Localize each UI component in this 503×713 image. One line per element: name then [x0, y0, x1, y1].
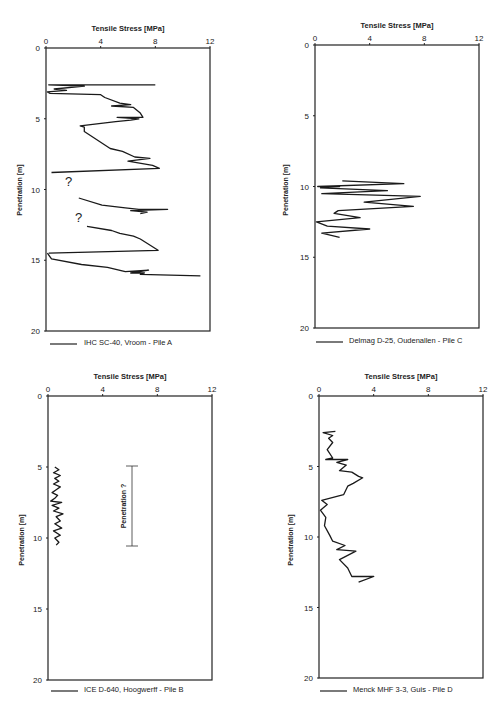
- y-tick-label: 15: [33, 605, 42, 614]
- x-axis-title: Tensile Stress [MPa]: [92, 24, 165, 33]
- data-line: [51, 467, 63, 545]
- penetration-range-annotation: Penetration ?: [120, 466, 138, 546]
- data-line: [47, 85, 159, 173]
- x-axis-ticks: 04812: [317, 385, 488, 396]
- y-tick-label: 15: [31, 256, 40, 265]
- y-axis-title: Penetration [m]: [282, 164, 290, 215]
- x-tick-label: 4: [367, 34, 372, 43]
- x-tick-label: 0: [317, 385, 322, 394]
- y-tick-label: 0: [38, 392, 43, 401]
- y-tick-label: 5: [309, 463, 314, 472]
- y-tick-label: 0: [305, 41, 310, 50]
- y-tick-label: 10: [304, 533, 313, 542]
- x-axis-ticks: 04812: [46, 385, 217, 396]
- x-tick-label: 12: [479, 385, 488, 394]
- chart-pile-d: Tensile Stress [MPa] 04812 05101520 Pene…: [253, 350, 503, 713]
- x-tick-label: 8: [422, 34, 427, 43]
- y-tick-label: 20: [304, 674, 313, 683]
- y-axis-ticks: 05101520: [33, 392, 48, 685]
- x-tick-label: 8: [426, 385, 431, 394]
- y-axis-ticks: 05101520: [31, 44, 46, 336]
- x-tick-label: 0: [44, 37, 49, 46]
- y-tick-label: 10: [31, 186, 40, 195]
- chart-pile-c: Tensile Stress [MPa] 04812 05101520 Pene…: [253, 0, 503, 350]
- y-axis-ticks: 05101520: [304, 392, 319, 683]
- x-tick-label: 4: [100, 385, 105, 394]
- y-axis-title: Penetration [m]: [16, 164, 24, 215]
- x-axis-title: Tensile Stress [MPa]: [365, 372, 438, 381]
- y-tick-label: 10: [300, 183, 309, 192]
- plot-frame: [46, 48, 210, 331]
- data-line: [320, 431, 373, 582]
- y-tick-label: 10: [33, 534, 42, 543]
- x-tick-label: 12: [208, 385, 217, 394]
- x-axis-title: Tensile Stress [MPa]: [361, 21, 434, 30]
- y-tick-label: 5: [36, 115, 41, 124]
- data-line: [79, 198, 168, 214]
- legend-label: Delmag D-25, Oudenallen - Pile C: [349, 336, 463, 345]
- y-axis-ticks: 05101520: [300, 41, 315, 333]
- y-tick-label: 20: [300, 324, 309, 333]
- chart-panel-pile-a: Tensile Stress [MPa] 04812 05101520 Pene…: [0, 0, 250, 350]
- y-tick-label: 0: [309, 392, 314, 401]
- x-axis-ticks: 04812: [313, 34, 484, 45]
- y-tick-label: 20: [33, 676, 42, 685]
- x-tick-label: 8: [153, 37, 158, 46]
- penetration-annotation-label: Penetration ?: [120, 484, 127, 529]
- y-tick-label: 15: [300, 253, 309, 262]
- x-tick-label: 4: [371, 385, 376, 394]
- y-tick-label: 15: [304, 604, 313, 613]
- x-tick-label: 12: [475, 34, 484, 43]
- data-series: [51, 467, 63, 545]
- chart-panel-pile-b: Tensile Stress [MPa] 04812 05101520 Pene…: [0, 350, 250, 713]
- chart-panel-pile-c: Tensile Stress [MPa] 04812 05101520 Pene…: [253, 0, 503, 350]
- y-tick-label: 5: [305, 112, 310, 121]
- annotation-question-1: ?: [65, 174, 72, 189]
- x-tick-label: 0: [46, 385, 51, 394]
- data-line: [316, 181, 420, 238]
- y-axis-title: Penetration [m]: [287, 514, 295, 565]
- data-line: [47, 253, 200, 276]
- plot-frame: [319, 396, 483, 678]
- y-tick-label: 0: [36, 44, 41, 53]
- x-tick-label: 8: [155, 385, 160, 394]
- y-tick-label: 5: [38, 463, 43, 472]
- data-series: [316, 181, 420, 238]
- chart-panel-pile-d: Tensile Stress [MPa] 04812 05101520 Pene…: [253, 350, 503, 713]
- x-tick-label: 0: [313, 34, 318, 43]
- legend-label: IHC SC-40, Vroom - Pile A: [84, 338, 172, 347]
- x-tick-label: 4: [98, 37, 103, 46]
- x-axis-ticks: 04812: [44, 37, 215, 48]
- y-axis-title: Penetration [m]: [18, 514, 26, 565]
- legend-label: ICE D-640, Hoogwerff - Pile B: [84, 685, 184, 694]
- chart-pile-a: Tensile Stress [MPa] 04812 05101520 Pene…: [0, 0, 250, 350]
- data-series: [320, 431, 373, 582]
- x-axis-title: Tensile Stress [MPa]: [94, 372, 167, 381]
- x-tick-label: 12: [206, 37, 215, 46]
- y-tick-label: 20: [31, 327, 40, 336]
- data-line: [49, 226, 158, 253]
- chart-pile-b: Tensile Stress [MPa] 04812 05101520 Pene…: [0, 350, 250, 713]
- plot-frame: [48, 396, 212, 680]
- legend-label: Menck MHF 3-3, Guis - Pile D: [353, 685, 453, 694]
- annotation-question-2: ?: [75, 210, 82, 225]
